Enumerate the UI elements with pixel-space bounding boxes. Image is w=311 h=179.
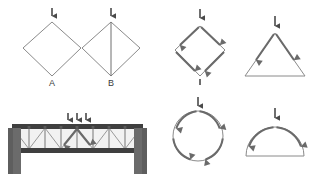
force-arrow-icon-lower-left <box>173 139 190 160</box>
panel-diamond-a: A <box>23 8 81 88</box>
diamond-outline-forces <box>175 26 225 76</box>
panel-label-a: A <box>49 78 55 88</box>
force-arrow-icon-lower-right <box>205 52 224 71</box>
pier-right-shadow <box>142 128 147 174</box>
arch-outline <box>246 127 304 156</box>
force-arrow-icon-upper-left <box>180 27 199 45</box>
panel-triangle-forces <box>245 16 305 76</box>
force-arrow-icon-right-leg <box>276 34 294 60</box>
panel-truss-bridge <box>8 113 147 174</box>
panel-arch-forces <box>246 108 304 156</box>
truss-bottom-chord <box>12 148 143 153</box>
force-arrow-icon-lower-right <box>206 139 223 160</box>
pier-left-shadow <box>8 128 13 174</box>
diamond-outline-a <box>23 22 81 76</box>
structural-diagram-figure: A B <box>0 0 311 179</box>
panel-label-b: B <box>108 78 114 88</box>
figure-canvas: A B <box>0 0 311 179</box>
panel-diamond-forces <box>175 9 225 85</box>
bridge-load-arrows <box>68 113 86 120</box>
force-arrow-icon-lower-left <box>176 52 195 71</box>
triangle-outline <box>245 33 305 76</box>
panel-circle-forces <box>173 97 223 161</box>
panel-diamond-b: B <box>82 8 140 88</box>
force-arrow-icon-upper-right <box>201 27 220 45</box>
force-arrow-icon-left-leg <box>256 34 274 60</box>
